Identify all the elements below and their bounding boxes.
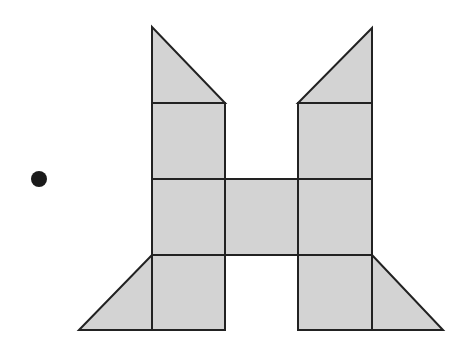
triangle-bottom-left (79, 255, 152, 330)
square-left-middle (152, 179, 225, 255)
triangle-top-left (152, 27, 225, 103)
net-shapes (79, 27, 443, 330)
triangle-bottom-right (372, 255, 443, 330)
square-left-bottom (152, 255, 225, 330)
square-center (225, 179, 298, 255)
triangle-top-right (298, 28, 372, 103)
square-left-top (152, 103, 225, 179)
point-marker (31, 171, 47, 187)
square-right-top (298, 103, 372, 179)
square-right-bottom (298, 255, 372, 330)
square-right-middle (298, 179, 372, 255)
net-diagram (0, 0, 468, 358)
